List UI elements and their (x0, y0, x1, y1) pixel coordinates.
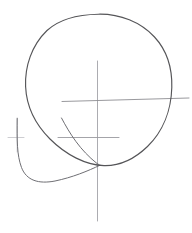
paper-background (0, 0, 192, 233)
drawing-surface (0, 0, 192, 233)
sketch-canvas (0, 0, 192, 233)
